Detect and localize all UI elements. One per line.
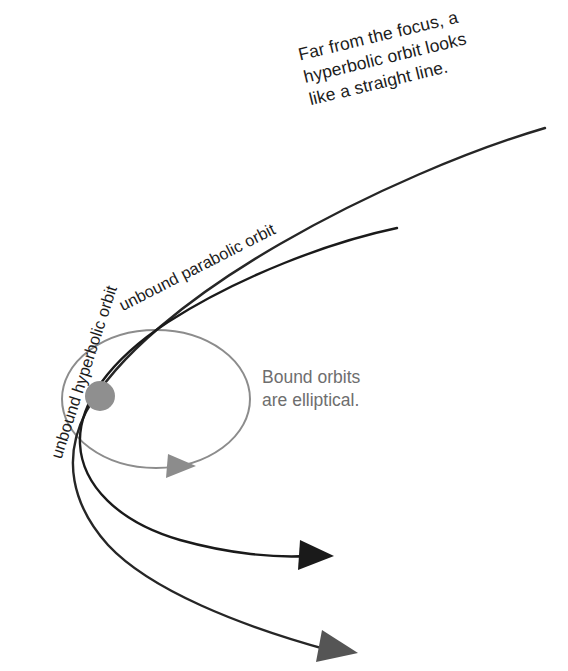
orbit-diagram: Far from the focus, a hyperbolic orbit l… [0, 0, 568, 671]
elliptical-orbit-arrowhead [166, 454, 196, 478]
hyperbolic-orbit-arrowhead [316, 630, 358, 662]
hyperbolic-orbit-group [73, 128, 545, 662]
central-body-focus [85, 381, 115, 411]
parabolic-orbit-arrowhead [298, 540, 334, 570]
parabolic-orbit-group [80, 228, 397, 570]
orbit-canvas [0, 0, 568, 671]
parabolic-orbit-path [80, 228, 397, 556]
hyperbolic-orbit-path [73, 128, 545, 651]
